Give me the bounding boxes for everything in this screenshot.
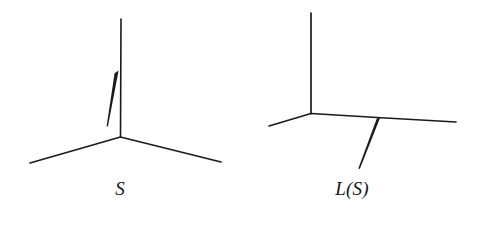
left-vertical-edge — [121, 19, 122, 137]
left-panel-label: S — [80, 178, 160, 200]
right-panel-label: L(S) — [312, 178, 392, 200]
figure-container: S L(S) — [0, 0, 488, 225]
figure-background — [0, 0, 488, 225]
figure-drawing — [0, 0, 488, 225]
